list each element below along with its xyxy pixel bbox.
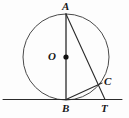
label-point-t: T <box>101 103 108 114</box>
label-point-a: A <box>62 1 69 12</box>
segment-chord-bc <box>66 83 102 100</box>
geometry-figure: A O C B T <box>0 0 129 118</box>
label-center-o: O <box>48 51 56 62</box>
center-point-dot <box>63 54 68 59</box>
geometry-canvas <box>0 0 129 118</box>
label-point-c: C <box>104 76 111 87</box>
segment-secant-at <box>66 14 105 100</box>
label-point-b: B <box>62 103 69 114</box>
